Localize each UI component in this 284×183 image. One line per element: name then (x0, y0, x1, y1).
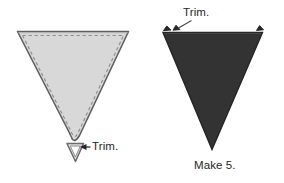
left-trim-label: Trim. (92, 140, 118, 152)
right-dog-ear-scrap-left-outer (164, 26, 172, 31)
right-trim-leader-line (179, 21, 192, 29)
right-dog-ear-scrap-right (257, 26, 264, 31)
make-count-caption: Make 5. (194, 159, 236, 171)
right-trim-label: Trim. (183, 6, 209, 18)
right-triangle-shape (163, 33, 263, 150)
quilting-diagram (0, 0, 284, 183)
illustration-canvas: Trim. Trim. Make 5. (0, 0, 284, 183)
left-triangle-shape (18, 32, 129, 141)
right-triangle-group (163, 21, 264, 150)
